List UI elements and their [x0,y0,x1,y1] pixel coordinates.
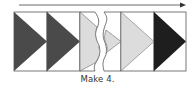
unit-square-3-torn [80,12,100,71]
unit-square-6 [154,12,186,71]
direction-arrow-icon [19,3,186,8]
unit-square-2 [47,12,80,71]
unit-square-1 [14,12,47,71]
unit-square-5 [121,12,154,71]
unit-square-4-torn [103,12,121,71]
caption-text: Make 4. [0,74,195,84]
